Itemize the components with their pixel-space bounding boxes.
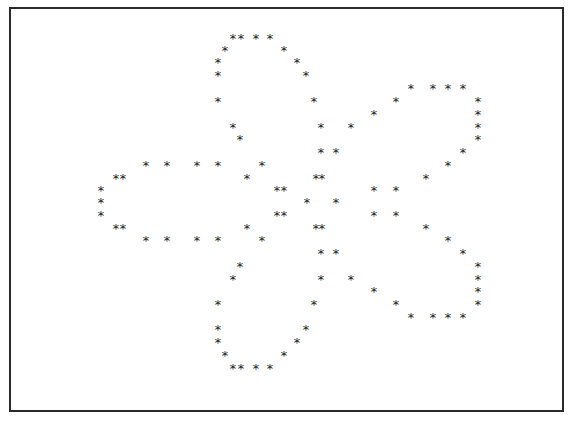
bottom-petal-asterisk: * xyxy=(316,273,326,286)
upper-right-petal-asterisk: * xyxy=(369,108,379,121)
left-petal-asterisk: * xyxy=(162,234,172,247)
top-petal-asterisk: * xyxy=(213,95,223,108)
upper-right-petal-asterisk: * xyxy=(406,82,416,95)
lower-right-petal-asterisk: * xyxy=(346,273,356,286)
center-asterisk: * xyxy=(279,184,289,197)
lower-right-petal-asterisk: * xyxy=(458,247,468,260)
top-petal-asterisk: * xyxy=(235,133,245,146)
upper-right-petal-asterisk: * xyxy=(391,95,401,108)
bottom-petal-asterisk: * xyxy=(228,273,238,286)
bottom-petal-asterisk: * xyxy=(279,349,289,362)
bottom-petal-asterisk: * xyxy=(265,362,275,375)
top-petal-asterisk: * xyxy=(331,146,341,159)
bottom-petal-asterisk: * xyxy=(331,247,341,260)
bottom-petal-asterisk: * xyxy=(301,323,311,336)
bottom-petal-asterisk: * xyxy=(236,362,246,375)
left-petal-asterisk: * xyxy=(213,234,223,247)
upper-right-petal-asterisk: * xyxy=(421,172,431,185)
top-petal-asterisk: * xyxy=(213,69,223,82)
center-asterisk: * xyxy=(242,222,252,235)
top-petal-asterisk: * xyxy=(236,32,246,45)
lower-right-petal-asterisk: * xyxy=(443,234,453,247)
bottom-petal-asterisk: * xyxy=(316,247,326,260)
center-asterisk: * xyxy=(302,196,312,209)
lower-right-petal-asterisk: * xyxy=(369,209,379,222)
upper-right-petal-asterisk: * xyxy=(443,159,453,172)
left-petal-asterisk: * xyxy=(141,234,151,247)
top-petal-asterisk: * xyxy=(251,32,261,45)
center-asterisk: * xyxy=(242,172,252,185)
lower-right-petal-asterisk: * xyxy=(369,285,379,298)
left-petal-asterisk: * xyxy=(141,159,151,172)
lower-right-petal-asterisk: * xyxy=(458,311,468,324)
lower-right-petal-asterisk: * xyxy=(421,222,431,235)
center-asterisk: * xyxy=(331,196,341,209)
top-petal-asterisk: * xyxy=(265,32,275,45)
top-petal-asterisk: * xyxy=(279,44,289,57)
center-asterisk: * xyxy=(317,172,327,185)
lower-right-petal-asterisk: * xyxy=(473,298,483,311)
left-petal-asterisk: * xyxy=(192,234,202,247)
upper-right-petal-asterisk: * xyxy=(458,146,468,159)
lower-right-petal-asterisk: * xyxy=(406,311,416,324)
left-petal-asterisk: * xyxy=(162,159,172,172)
center-asterisk: * xyxy=(257,234,267,247)
top-petal-asterisk: * xyxy=(316,146,326,159)
lower-right-petal-asterisk: * xyxy=(443,311,453,324)
top-petal-asterisk: * xyxy=(292,56,302,69)
upper-right-petal-asterisk: * xyxy=(369,184,379,197)
upper-right-petal-asterisk: * xyxy=(443,82,453,95)
bottom-petal-asterisk: * xyxy=(309,298,319,311)
left-petal-asterisk: * xyxy=(118,222,128,235)
bottom-petal-asterisk: * xyxy=(251,362,261,375)
center-asterisk: * xyxy=(279,209,289,222)
upper-right-petal-asterisk: * xyxy=(346,121,356,134)
center-asterisk: * xyxy=(317,222,327,235)
left-petal-asterisk: * xyxy=(192,159,202,172)
left-petal-asterisk: * xyxy=(118,172,128,185)
upper-right-petal-asterisk: * xyxy=(391,184,401,197)
top-petal-asterisk: * xyxy=(301,69,311,82)
left-petal-asterisk: * xyxy=(213,159,223,172)
bottom-petal-asterisk: * xyxy=(213,298,223,311)
lower-right-petal-asterisk: * xyxy=(391,298,401,311)
lower-right-petal-asterisk: * xyxy=(428,311,438,324)
upper-right-petal-asterisk: * xyxy=(428,82,438,95)
left-petal-asterisk: * xyxy=(96,209,106,222)
bottom-petal-asterisk: * xyxy=(292,336,302,349)
upper-right-petal-asterisk: * xyxy=(473,133,483,146)
top-petal-asterisk: * xyxy=(316,121,326,134)
upper-right-petal-asterisk: * xyxy=(458,82,468,95)
top-petal-asterisk: * xyxy=(309,95,319,108)
center-asterisk: * xyxy=(257,159,267,172)
lower-right-petal-asterisk: * xyxy=(391,209,401,222)
